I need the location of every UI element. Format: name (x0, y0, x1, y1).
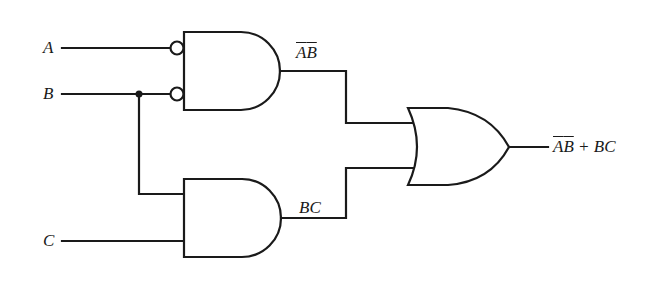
inverter-bubble-a-icon (171, 42, 184, 55)
label-and2-output: BC (299, 199, 321, 216)
label-final-output: AB + BC (553, 138, 615, 155)
label-and1-output-a: A (296, 43, 306, 62)
junction-dot (136, 91, 143, 98)
label-input-a: A (43, 39, 53, 56)
label-final-output-b: B (563, 137, 573, 156)
label-and1-output-b: B (306, 43, 316, 62)
wire-b-branch (139, 94, 184, 194)
label-final-output-rest: + BC (574, 137, 616, 156)
label-final-output-a: A (553, 137, 563, 156)
and-gate-2 (184, 179, 281, 257)
logic-circuit-diagram: A B C AB BC AB + BC (0, 0, 658, 290)
inverter-bubble-b-icon (171, 88, 184, 101)
or-gate (408, 108, 509, 185)
label-input-c: C (43, 232, 54, 249)
label-input-b: B (43, 85, 53, 102)
and-gate-1 (184, 32, 280, 110)
wire-and1-to-or (280, 71, 414, 123)
label-and1-output: AB (296, 44, 317, 61)
